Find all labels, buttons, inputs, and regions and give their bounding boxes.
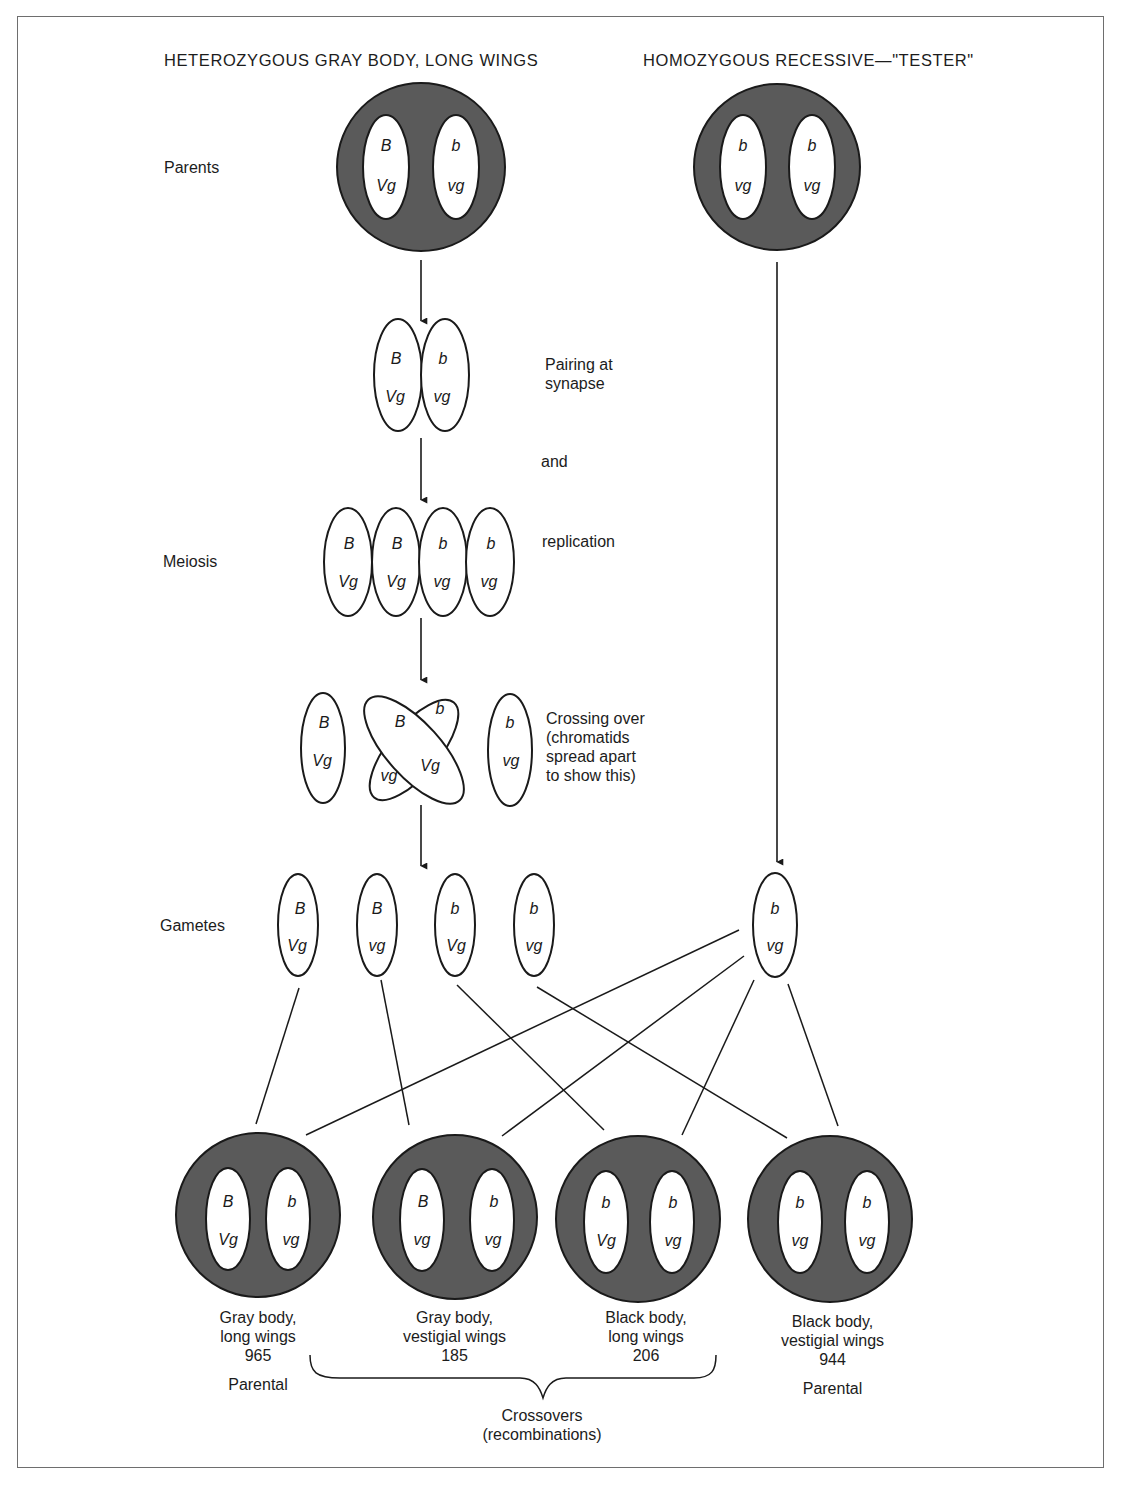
offspring-caption-2: Gray body, vestigial wings 185 <box>372 1308 537 1365</box>
allele: b <box>771 900 780 917</box>
step-label-and: and <box>541 452 568 471</box>
allele: Vg <box>312 752 332 769</box>
allele: b <box>439 350 448 367</box>
phenotype-wings: vestigial wings <box>750 1331 915 1350</box>
allele: B <box>395 713 406 730</box>
allele: b <box>808 137 817 154</box>
allele: vg <box>448 177 465 194</box>
chromatid <box>301 693 345 803</box>
parent-cell-heterozygous: B Vg b vg <box>337 83 505 251</box>
chromosome <box>778 1171 822 1273</box>
allele: vg <box>792 1232 809 1249</box>
allele: B <box>319 714 330 731</box>
allele: vg <box>526 937 543 954</box>
allele: b <box>452 137 461 154</box>
allele: vg <box>665 1232 682 1249</box>
chromosome <box>650 1171 694 1273</box>
allele: Vg <box>287 937 307 954</box>
crossing-line3: spread apart <box>546 747 645 766</box>
allele: b <box>602 1194 611 1211</box>
chromosome <box>845 1171 889 1273</box>
phenotype-body: Gray body, <box>372 1308 537 1327</box>
chromatid <box>372 508 420 616</box>
parent-cell-tester: b vg b vg <box>694 84 860 250</box>
tester-gamete <box>753 873 797 977</box>
allele: b <box>669 1194 678 1211</box>
allele: B <box>295 900 306 917</box>
chromosome <box>206 1168 250 1270</box>
allele: Vg <box>386 573 406 590</box>
allele: Vg <box>385 388 405 405</box>
chromatid <box>466 508 514 616</box>
row-label-meiosis: Meiosis <box>163 552 217 571</box>
chromosome <box>720 115 766 219</box>
allele: B <box>381 137 392 154</box>
offspring-type: Parental <box>178 1375 338 1394</box>
allele: vg <box>381 767 398 784</box>
phenotype-wings: vestigial wings <box>372 1327 537 1346</box>
allele: Vg <box>420 757 440 774</box>
step-label-pairing-line1: Pairing at <box>545 355 613 374</box>
chromosome <box>266 1168 310 1270</box>
chromosome <box>584 1171 628 1273</box>
offspring-cell-4: b vg b vg <box>748 1136 912 1302</box>
allele: vg <box>283 1231 300 1248</box>
allele: B <box>223 1193 234 1210</box>
crossovers-label-line2: (recombinations) <box>462 1425 622 1444</box>
phenotype-body: Black body, <box>750 1312 915 1331</box>
allele: B <box>391 350 402 367</box>
chromatid-crossed <box>348 681 479 818</box>
chromosome <box>470 1169 514 1271</box>
allele: vg <box>503 752 520 769</box>
offspring-count: 185 <box>372 1346 537 1365</box>
step-label-pairing-line2: synapse <box>545 374 613 393</box>
header-tester: HOMOZYGOUS RECESSIVE—"TESTER" <box>643 51 974 70</box>
step-label-pairing: Pairing at synapse <box>545 355 613 393</box>
phenotype-wings: long wings <box>571 1327 721 1346</box>
allele: B <box>344 535 355 552</box>
allele: vg <box>804 177 821 194</box>
chromatid <box>324 508 372 616</box>
row-label-parents: Parents <box>164 158 219 177</box>
chromosome <box>374 319 422 431</box>
chromatid <box>419 508 467 616</box>
crossing-line4: to show this) <box>546 766 645 785</box>
offspring-caption-4: Black body, vestigial wings 944 Parental <box>750 1312 915 1398</box>
crossing-line1: Crossing over <box>546 709 645 728</box>
chromosome <box>433 115 479 219</box>
allele: vg <box>434 573 451 590</box>
step-label-replication: replication <box>542 532 615 551</box>
allele: b <box>796 1194 805 1211</box>
allele: B <box>392 535 403 552</box>
allele: b <box>863 1194 872 1211</box>
allele: b <box>288 1193 297 1210</box>
replicated-chromatids: B Vg B Vg b vg b vg <box>324 508 514 616</box>
allele: vg <box>485 1231 502 1248</box>
offspring-cell-1: B Vg b vg <box>176 1133 340 1297</box>
allele: vg <box>369 937 386 954</box>
step-label-crossing-over: Crossing over (chromatids spread apart t… <box>546 709 645 785</box>
chromosome <box>400 1169 444 1271</box>
chromosome <box>421 319 469 431</box>
gamete <box>435 874 475 976</box>
row-label-gametes: Gametes <box>160 916 225 935</box>
gametes-row: B Vg B vg b Vg b vg b vg <box>278 873 797 977</box>
synapse-pair: B Vg b vg <box>374 319 469 431</box>
allele: b <box>530 900 539 917</box>
crossovers-label: Crossovers (recombinations) <box>462 1406 622 1444</box>
offspring-cell-3: b Vg b vg <box>556 1136 720 1302</box>
offspring-cell-2: B vg b vg <box>373 1135 537 1299</box>
offspring-type: Parental <box>750 1379 915 1398</box>
allele: vg <box>434 388 451 405</box>
crossing-over: B Vg B Vg b vg b vg <box>301 681 532 818</box>
allele: B <box>372 900 383 917</box>
crossovers-label-line1: Crossovers <box>462 1406 622 1425</box>
offspring-caption-3: Black body, long wings 206 <box>571 1308 721 1365</box>
allele: Vg <box>338 573 358 590</box>
offspring-count: 965 <box>178 1346 338 1365</box>
allele: vg <box>481 573 498 590</box>
allele: vg <box>414 1231 431 1248</box>
phenotype-body: Black body, <box>571 1308 721 1327</box>
crossing-line2: (chromatids <box>546 728 645 747</box>
allele: b <box>439 535 448 552</box>
